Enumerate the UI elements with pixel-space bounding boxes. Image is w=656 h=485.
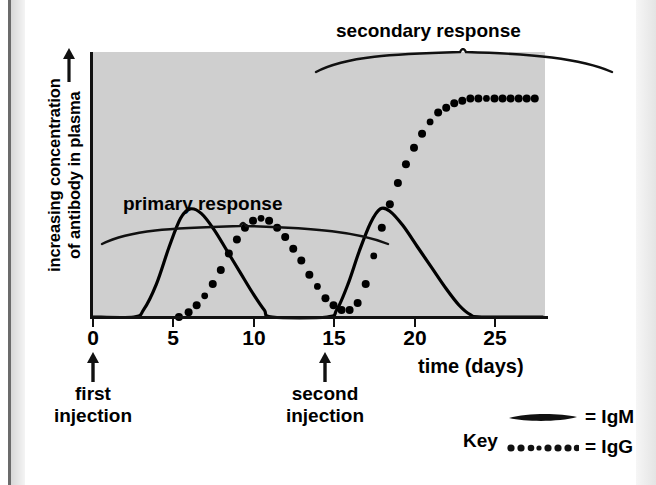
- second-injection-line2: injection: [286, 405, 364, 426]
- igg-data-point: [330, 301, 338, 309]
- primary-response-brace: [100, 220, 390, 248]
- legend-label-igm: = IgM: [585, 406, 634, 428]
- first-injection-label: first injection: [23, 383, 163, 428]
- x-axis-line: [90, 316, 548, 319]
- igg-data-point: [515, 94, 523, 102]
- legend-dotted-line-icon: [507, 434, 579, 460]
- igg-data-point: [442, 104, 450, 112]
- igg-data-point: [450, 99, 458, 107]
- legend-item-igm: = IgM: [507, 404, 637, 434]
- igg-data-point: [402, 160, 410, 168]
- igg-data-point: [507, 94, 515, 102]
- x-axis-label: time (days): [418, 355, 524, 378]
- igg-data-point: [314, 283, 321, 290]
- y-axis-label-line1: increasing concentration: [45, 78, 63, 272]
- igg-data-point: [193, 301, 201, 309]
- x-tick-label-20: 20: [395, 327, 435, 348]
- secondary-response-label: secondary response: [336, 20, 521, 42]
- second-injection-label: second injection: [255, 383, 395, 428]
- first-injection-arrow-icon: [86, 352, 100, 382]
- second-injection-line1: second: [292, 383, 359, 404]
- igg-data-point: [297, 257, 305, 265]
- secondary-response-brace: [314, 48, 614, 76]
- igg-data-point: [338, 306, 346, 314]
- igg-data-point: [531, 94, 539, 102]
- igg-data-point: [354, 299, 362, 307]
- igg-data-point: [209, 280, 217, 288]
- igg-data-point: [434, 109, 442, 117]
- legend: Key = IgM = IgG: [463, 404, 633, 476]
- legend-title: Key: [463, 430, 498, 452]
- x-tick-label-25: 25: [475, 327, 515, 348]
- legend-item-igg: = IgG: [507, 434, 637, 464]
- igg-data-point: [418, 130, 426, 138]
- legend-label-igg: = IgG: [585, 436, 633, 458]
- igg-data-point: [491, 94, 499, 102]
- igg-data-point: [370, 253, 377, 260]
- igg-data-point: [499, 94, 507, 102]
- x-tick-label-0: 0: [73, 327, 113, 348]
- igg-data-point: [362, 280, 370, 288]
- antibody-curves: [92, 52, 545, 317]
- igg-data-point: [225, 250, 233, 258]
- igg-data-point: [474, 94, 482, 102]
- figure-page: increasing concentration of antibody in …: [0, 0, 656, 485]
- igg-data-point: [305, 271, 313, 279]
- x-tick-label-15: 15: [314, 327, 354, 348]
- igg-data-point: [523, 94, 531, 102]
- igg-data-point: [483, 95, 490, 102]
- y-axis-label-line2: of antibody in plasma: [65, 91, 83, 259]
- first-injection-line2: injection: [54, 405, 132, 426]
- y-axis-label: increasing concentration of antibody in …: [44, 41, 84, 309]
- igg-data-point: [466, 94, 474, 102]
- x-tick-label-10: 10: [234, 327, 274, 348]
- igg-data-point: [217, 266, 225, 274]
- igg-data-point: [201, 292, 208, 299]
- plot-area: [92, 52, 545, 317]
- igg-data-point: [458, 97, 466, 105]
- igg-data-point: [394, 179, 402, 187]
- igg-data-point: [410, 144, 418, 152]
- igg-data-point: [386, 200, 394, 208]
- primary-response-label: primary response: [123, 193, 282, 215]
- igg-data-point: [346, 306, 354, 314]
- y-axis-line: [90, 52, 93, 319]
- first-injection-line1: first: [75, 383, 111, 404]
- igg-data-point: [427, 119, 434, 126]
- x-tick-label-5: 5: [153, 327, 193, 348]
- igg-data-point: [321, 294, 329, 302]
- second-injection-arrow-icon: [318, 352, 332, 382]
- page-right-edge-shadow: [636, 0, 656, 485]
- legend-solid-line-icon: [507, 404, 579, 430]
